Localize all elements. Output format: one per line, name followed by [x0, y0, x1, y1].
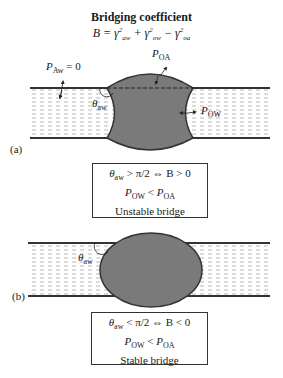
- panel-b-condition-box: θaw < π/2 ⇔ B < 0 POW < POA Stable bridg…: [91, 312, 208, 365]
- panel-a-condition-box: θaw > π/2 ⇔ B > 0 POW < POA Unstable bri…: [92, 163, 208, 218]
- panel-b-oil-bridge: [100, 233, 202, 307]
- label-theta-aw-b: θaw: [78, 251, 93, 266]
- panel-a-box-line1: θaw > π/2 ⇔ B > 0: [93, 166, 207, 185]
- label-p-oa: POA: [152, 47, 170, 62]
- panel-a-box-line2: POW < POA: [93, 185, 207, 204]
- label-theta-aw-a: θaw: [92, 97, 107, 112]
- panel-a-box-line3: Unstable bridge: [93, 204, 207, 219]
- panel-b-box-line1: θaw < π/2 ⇔ B < 0: [92, 315, 207, 334]
- panel-a-oil-bridge: [107, 74, 193, 150]
- panel-a-tag: (a): [10, 143, 22, 155]
- label-p-aw: PAw = 0: [46, 60, 81, 75]
- panel-b-box-line3: Stable bridge: [92, 353, 207, 368]
- panel-b-tag: (b): [12, 290, 25, 302]
- panel-b-box-line2: POW < POA: [92, 334, 207, 353]
- label-p-ow: POW: [201, 104, 221, 119]
